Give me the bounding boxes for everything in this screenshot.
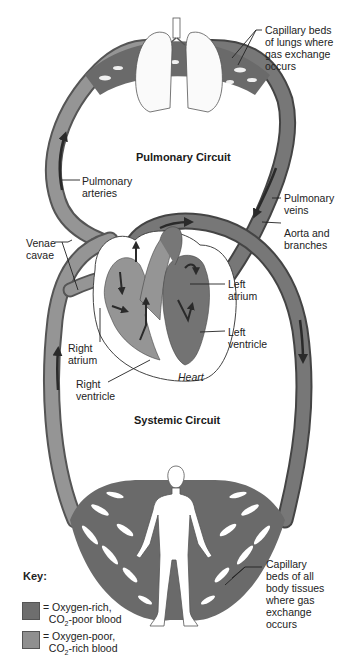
label-right-ventricle: Right ventricle xyxy=(76,378,115,402)
label-heart: Heart xyxy=(178,371,204,383)
key-title: Key: xyxy=(23,570,47,582)
systemic-circuit-title: Systemic Circuit xyxy=(134,414,220,426)
label-right-atrium: Right atrium xyxy=(68,342,97,366)
label-capillary-lungs: Capillary beds of lungs where gas exchan… xyxy=(265,24,333,72)
oxygen-poor-swatch xyxy=(22,631,40,649)
key-item-oxygen-rich: = Oxygen-rich, CO2-poor blood xyxy=(22,601,122,630)
label-venae-cavae: Venae cavae xyxy=(26,237,56,261)
pulmonary-circuit-title: Pulmonary Circuit xyxy=(136,151,231,163)
label-left-ventricle: Left ventricle xyxy=(228,326,267,350)
oxygen-rich-swatch xyxy=(22,602,40,620)
heart xyxy=(93,227,236,381)
label-pulmonary-arteries: Pulmonary arteries xyxy=(82,175,132,199)
key-item-oxygen-poor: = Oxygen-poor, CO2-rich blood xyxy=(22,630,118,659)
label-pulmonary-veins: Pulmonary veins xyxy=(284,192,334,216)
label-aorta: Aorta and branches xyxy=(284,227,330,251)
label-capillary-body: Capillary beds of all body tissues where… xyxy=(266,558,324,630)
label-left-atrium: Left atrium xyxy=(228,278,257,302)
